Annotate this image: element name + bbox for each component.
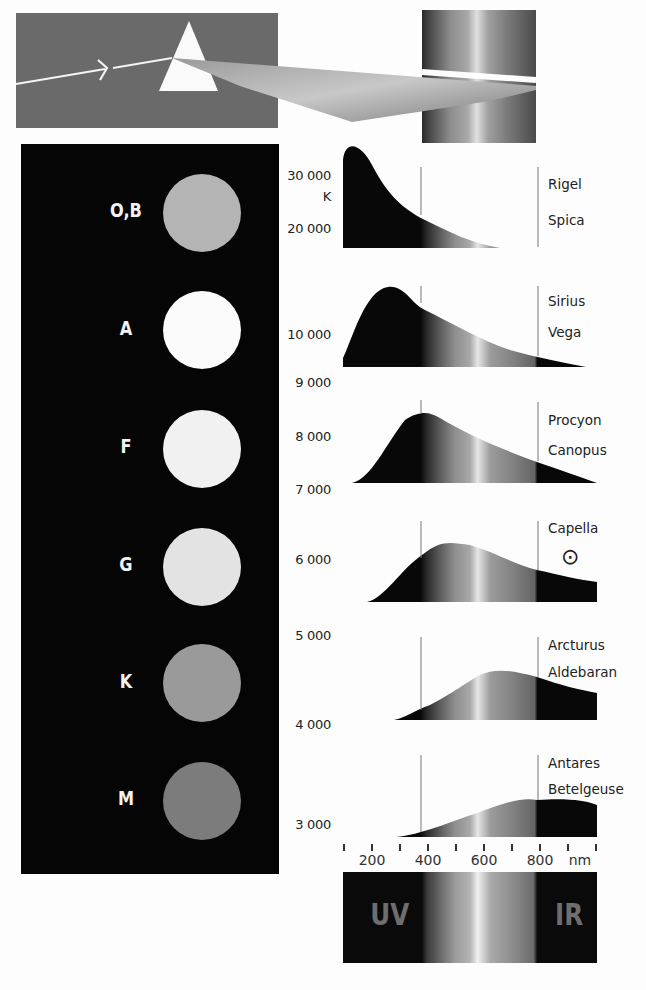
tick [399, 844, 401, 851]
spectrum-curves [0, 0, 646, 990]
star-name-arcturus: Arcturus [548, 637, 605, 653]
star-name-rigel: Rigel [548, 176, 582, 192]
visible-band-markers [421, 167, 538, 832]
star-name-betelgeuse: Betelgeuse [548, 781, 624, 797]
tick-label-800: 800 [527, 852, 554, 868]
tick [371, 844, 373, 851]
tick [567, 844, 569, 851]
tick [483, 844, 485, 851]
ir-label: IR [555, 897, 583, 932]
star-name-procyon: Procyon [548, 412, 602, 428]
tick [455, 844, 457, 851]
axis-unit-nm: nm [569, 852, 592, 868]
star-name-vega: Vega [548, 324, 581, 340]
star-name-canopus: Canopus [548, 442, 607, 458]
tick [511, 844, 513, 851]
tick [427, 844, 429, 851]
tick-label-600: 600 [471, 852, 498, 868]
tick-label-200: 200 [359, 852, 386, 868]
spectrum-curve-m [396, 799, 597, 837]
star-name-spica: Spica [548, 212, 585, 228]
tick-label-400: 400 [415, 852, 442, 868]
star-name-aldebaran: Aldebaran [548, 664, 617, 680]
star-name-antares: Antares [548, 755, 600, 771]
tick [343, 844, 345, 851]
star-name-sirius: Sirius [548, 293, 585, 309]
uv-label: UV [370, 897, 409, 932]
sun-icon: ⊙ [561, 544, 579, 569]
tick [539, 844, 541, 851]
star-name-capella: Capella [548, 520, 598, 536]
tick [595, 844, 597, 851]
